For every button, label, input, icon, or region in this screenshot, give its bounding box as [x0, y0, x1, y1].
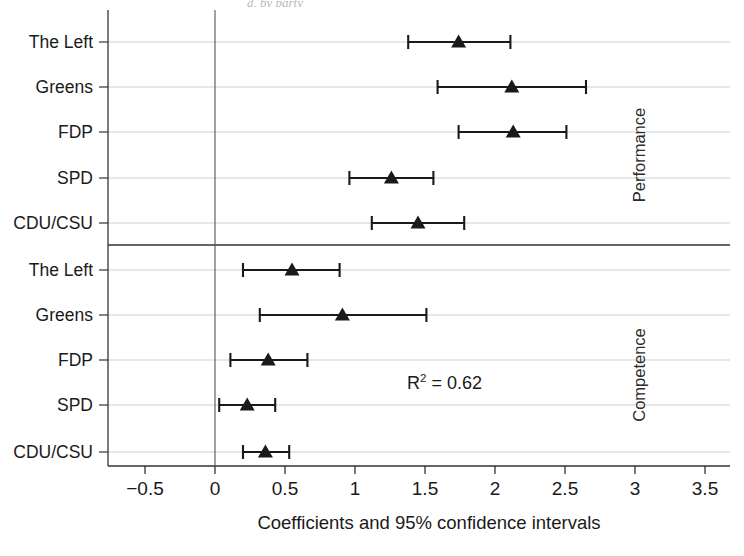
x-tick-label-3: 1	[350, 478, 361, 499]
estimate-row-competence-3	[219, 398, 275, 413]
x-axis-title: Coefficients and 95% confidence interval…	[257, 512, 600, 533]
y-axis-label-competence-1: Greens	[36, 305, 94, 325]
estimate-row-performance-4	[372, 216, 464, 231]
x-tick-label-6: 2.5	[552, 478, 578, 499]
x-tick-label-8: 3.5	[692, 478, 718, 499]
x-tick-label-2: 0.5	[272, 478, 298, 499]
plot-canvas: −0.500.511.522.533.5The LeftGreensFDPSPD…	[0, 0, 744, 556]
estimate-row-performance-3	[349, 171, 433, 186]
y-axis-label-performance-0: The Left	[29, 32, 93, 52]
y-axis-label-competence-4: CDU/CSU	[13, 442, 93, 462]
x-tick-label-5: 2	[490, 478, 501, 499]
y-axis-label-competence-0: The Left	[29, 260, 93, 280]
x-tick-label-4: 1.5	[412, 478, 438, 499]
estimate-row-competence-1	[260, 308, 427, 323]
panel-label-performance: Performance	[630, 108, 648, 202]
x-tick-label-1: 0	[210, 478, 221, 499]
r-squared-annotation: R2 = 0.62	[407, 372, 482, 393]
forest-plot-figure: d, by party −0.500.511.522.533.5The Left…	[0, 0, 744, 556]
y-axis-label-performance-4: CDU/CSU	[13, 213, 93, 233]
estimate-row-competence-2	[230, 353, 307, 368]
y-axis-label-performance-3: SPD	[57, 168, 93, 188]
y-axis-label-performance-2: FDP	[58, 122, 93, 142]
estimate-row-performance-1	[438, 80, 586, 95]
y-axis-label-performance-1: Greens	[36, 77, 94, 97]
panel-label-competence: Competence	[630, 328, 648, 422]
y-axis-label-competence-3: SPD	[57, 395, 93, 415]
estimate-row-performance-0	[408, 35, 510, 50]
estimate-row-performance-2	[459, 125, 567, 140]
estimate-row-competence-4	[243, 445, 289, 460]
y-axis-label-competence-2: FDP	[58, 350, 93, 370]
x-tick-label-7: 3	[630, 478, 641, 499]
estimate-row-competence-0	[243, 263, 340, 278]
x-tick-label-0: −0.5	[126, 478, 164, 499]
